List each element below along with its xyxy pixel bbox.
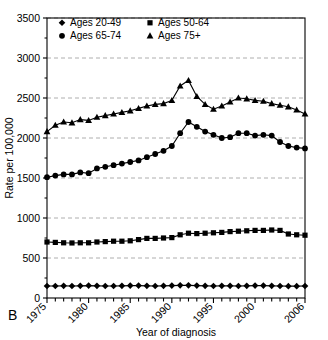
data-point-triangle [147,32,154,38]
legend-item[interactable]: Ages 20-49 [59,17,122,28]
x-tick-label: 2000 [231,300,256,325]
legend-label: Ages 75+ [158,30,201,41]
data-point-square [94,239,99,244]
data-point-triangle [218,103,225,109]
data-point-circle [186,119,192,125]
data-point-triangle [44,128,51,134]
data-point-square [294,232,299,237]
data-point-circle [111,162,117,168]
y-tick-label: 1000 [17,212,41,224]
series-line [47,80,305,131]
data-point-square [161,235,166,240]
data-point-square [219,230,224,235]
data-point-diamond [260,282,267,289]
data-point-circle [285,143,291,149]
data-point-square [286,231,291,236]
data-point-circle [277,139,283,145]
data-point-square [111,239,116,244]
series-ages-75 [44,77,309,134]
data-point-diamond [52,283,59,290]
data-point-diamond [119,283,126,290]
data-point-diamond [77,283,84,290]
data-point-triangle [177,83,184,89]
data-point-diamond [60,283,67,290]
series-ages-50-64 [44,227,307,245]
legend-item[interactable]: Ages 50-64 [147,17,209,28]
data-point-circle [260,132,266,138]
data-point-diamond [252,282,259,289]
data-point-triangle [193,93,200,99]
x-axis-title: Year of diagnosis [136,326,216,338]
data-point-diamond [218,283,225,290]
data-point-square [119,239,124,244]
data-point-circle [252,133,258,139]
legend-label: Ages 50-64 [158,17,210,28]
data-point-square [103,239,108,244]
plot-frame [47,18,305,298]
data-point-circle [61,172,67,178]
data-point-circle [227,134,233,140]
x-tick-label: 1980 [65,300,90,325]
data-point-circle [52,173,58,179]
legend: Ages 20-49Ages 50-64Ages 65-74Ages 75+ [59,17,210,41]
data-point-circle [152,151,158,157]
data-point-circle [244,130,250,136]
data-point-square [252,228,257,233]
data-point-diamond [302,283,309,290]
y-tick-label: 500 [22,252,40,264]
y-tick-label: 3000 [17,52,41,64]
legend-item[interactable]: Ages 75+ [147,30,201,41]
panel-label: B [8,307,17,323]
data-point-circle [161,148,167,154]
data-point-diamond [235,283,242,290]
data-point-square [194,231,199,236]
data-point-circle [219,135,225,141]
data-point-square [236,229,241,234]
data-point-diamond [152,283,159,290]
data-point-square [78,240,83,245]
data-point-circle [136,158,142,164]
y-axis-title: Rate per 100,000 [3,117,15,198]
y-tick-label: 2000 [17,132,41,144]
data-point-square [169,235,174,240]
data-point-diamond [177,282,184,289]
data-point-circle [236,130,242,136]
data-point-square [269,227,274,232]
data-point-diamond [127,282,134,289]
data-point-diamond [268,283,275,290]
data-point-square [277,228,282,233]
data-point-circle [44,174,50,180]
data-point-square [61,240,66,245]
figure-panel-b: 0500100015002000250030003500197519801985… [0,0,328,340]
x-tick-label: 2006 [281,300,306,325]
data-point-square [261,228,266,233]
data-point-triangle [185,77,192,83]
x-tick-label: 1990 [148,300,173,325]
legend-label: Ages 20-49 [70,17,122,28]
series-line [47,122,305,177]
data-point-circle [169,143,175,149]
data-point-square [227,229,232,234]
x-tick-label: 1995 [190,300,215,325]
data-point-diamond [227,283,234,290]
data-point-square [178,232,183,237]
data-point-circle [177,130,183,136]
data-point-circle [269,133,275,139]
data-point-square [44,239,49,244]
data-point-diamond [69,283,76,290]
data-point-square [147,20,152,25]
line-chart: 0500100015002000250030003500197519801985… [0,0,328,340]
data-point-diamond [102,283,109,290]
data-point-diamond [202,283,209,290]
data-point-diamond [293,283,300,290]
clipped-figure-title [70,0,310,4]
data-point-square [69,240,74,245]
series-line [47,230,305,243]
data-point-triangle [235,95,242,101]
legend-item[interactable]: Ages 65-74 [59,30,121,41]
data-point-diamond [194,282,201,289]
data-point-circle [77,170,83,176]
data-point-diamond [44,283,51,290]
x-tick-label: 1985 [107,300,132,325]
data-point-triangle [60,119,67,125]
